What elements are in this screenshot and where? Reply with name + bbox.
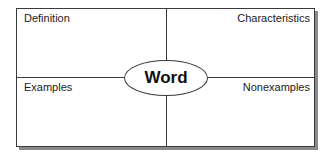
quadrant-label-definition: Definition [24, 12, 70, 25]
quadrant-label-characteristics: Characteristics [237, 12, 310, 25]
center-oval: Word [124, 60, 208, 96]
quadrant-label-nonexamples: Nonexamples [243, 81, 310, 94]
center-word-label: Word [144, 68, 187, 88]
quadrant-label-examples: Examples [24, 81, 72, 94]
frayer-model-diagram: Definition Characteristics Examples None… [0, 0, 334, 158]
